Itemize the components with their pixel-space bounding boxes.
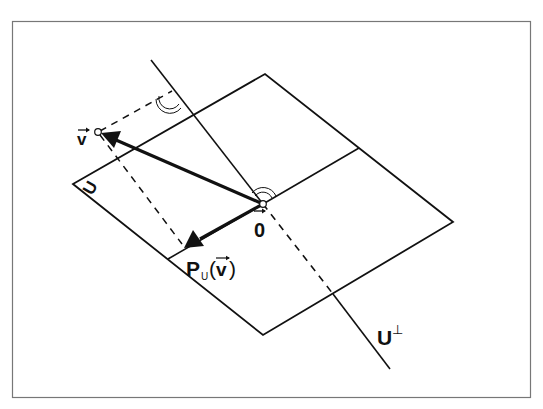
svg-text:): ) [229,257,236,280]
projection-diagram: v 0 U P U ( v ) U ⊥ [0,0,543,409]
svg-text:0: 0 [254,219,265,241]
label-v: v [77,128,90,150]
svg-text:v: v [77,130,87,149]
point-origin [260,201,267,208]
label-projection: P U ( v ) [186,256,236,282]
svg-text:U: U [201,271,208,282]
dashed-v-to-normal [100,91,172,131]
svg-text:U: U [377,326,392,349]
right-angle-mark-top-inner [159,96,179,109]
svg-text:(: ( [209,257,216,280]
point-v [95,129,102,136]
svg-text:⊥: ⊥ [392,322,403,337]
svg-text:P: P [186,257,200,280]
label-orth-complement: U ⊥ [377,322,403,349]
svg-text:v: v [216,259,227,280]
